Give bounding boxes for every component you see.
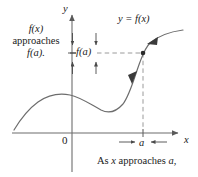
x-value-label: a [139, 137, 144, 149]
approach-text-line-3: f(a). [2, 47, 70, 59]
y-value-label: f(a) [76, 46, 91, 58]
marked-point [141, 51, 146, 56]
curve-arrow-from-right [147, 37, 158, 45]
limit-diagram-figure: f(x) approaches f(a). f(a) y = f(x) y x … [0, 0, 198, 177]
approach-text-block: f(x) approaches f(a). [2, 23, 70, 58]
approach-text-line-2: approaches [2, 35, 70, 47]
figure-caption: As x approaches a, [97, 155, 176, 167]
approach-text-line-1: f(x) [2, 23, 70, 35]
origin-label: 0 [62, 134, 68, 146]
curve-equation-label: y = f(x) [118, 13, 150, 25]
curve-arrow-from-left [128, 71, 137, 84]
y-axis-label: y [63, 3, 68, 15]
x-axis-label: x [184, 134, 189, 146]
